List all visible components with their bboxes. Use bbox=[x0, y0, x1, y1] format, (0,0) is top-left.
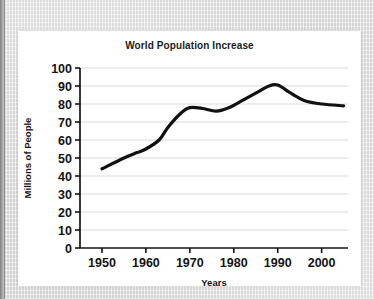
x-axis-title: Years bbox=[201, 277, 226, 286]
y-tick-label-0: 0 bbox=[65, 242, 72, 256]
x-tick-label-2000: 2000 bbox=[308, 256, 336, 270]
chart-card: World Population Increase 01020304050607… bbox=[18, 31, 361, 286]
y-tick-label-100: 100 bbox=[51, 62, 72, 76]
y-axis-title: Millions of People bbox=[22, 118, 33, 199]
y-tick-label-20: 20 bbox=[58, 206, 72, 220]
scan-gutter-line bbox=[4, 0, 5, 299]
y-tick-label-10: 10 bbox=[58, 224, 72, 238]
y-tick-label-30: 30 bbox=[58, 188, 72, 202]
x-tick-label-1990: 1990 bbox=[264, 256, 292, 270]
y-tick-label-40: 40 bbox=[58, 170, 72, 184]
y-tick-label-80: 80 bbox=[58, 98, 72, 112]
line-chart: 0102030405060708090100 19501960197019801… bbox=[18, 31, 361, 286]
x-tick-label-1970: 1970 bbox=[176, 256, 204, 270]
y-tick-label-50: 50 bbox=[58, 152, 72, 166]
gridlines-group bbox=[80, 68, 348, 230]
scanned-page: World Population Increase 01020304050607… bbox=[0, 0, 374, 299]
y-tick-label-90: 90 bbox=[58, 80, 72, 94]
x-tick-group: 195019601970198019902000 bbox=[88, 248, 336, 270]
data-series-group bbox=[102, 84, 344, 168]
y-tick-label-70: 70 bbox=[58, 116, 72, 130]
y-tick-group: 0102030405060708090100 bbox=[51, 62, 80, 256]
x-tick-label-1980: 1980 bbox=[220, 256, 248, 270]
x-tick-label-1950: 1950 bbox=[88, 256, 116, 270]
series-line-0 bbox=[102, 84, 344, 168]
y-tick-label-60: 60 bbox=[58, 134, 72, 148]
x-tick-label-1960: 1960 bbox=[132, 256, 160, 270]
